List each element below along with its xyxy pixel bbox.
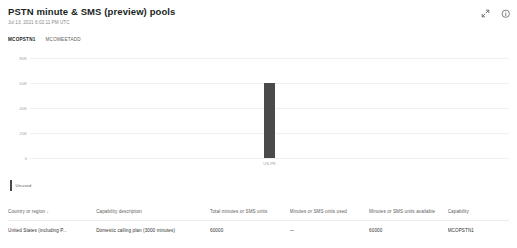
y-axis-tick-label: 40K [20, 106, 27, 111]
y-axis-tick-label: 60K [20, 81, 27, 86]
report-header: PSTN minute & SMS (preview) pools Jul 13… [8, 6, 509, 27]
column-header-capability[interactable]: Capability [448, 209, 509, 214]
cell-used: — [290, 228, 370, 233]
tab-mcomeetadd[interactable]: MCOMEETADD [46, 37, 81, 44]
tab-mcopstn1[interactable]: MCOPSTN1 [8, 37, 36, 44]
sku-tabs: MCOPSTN1 MCOMEETADD [8, 37, 81, 44]
cell-capability-description: Domestic calling plan (3000 minutes) [96, 228, 210, 233]
pool-details-table: Country or region ↓ Capability descripti… [8, 203, 509, 240]
y-axis-tick-label: 0 [25, 156, 27, 161]
page-title: PSTN minute & SMS (preview) pools [8, 6, 509, 18]
info-icon[interactable] [500, 8, 511, 19]
cell-available: 60000 [369, 228, 448, 233]
gridline [30, 58, 509, 59]
header-actions [480, 8, 511, 19]
table-row[interactable]: United States (including P... Domestic c… [8, 221, 509, 240]
column-header-available[interactable]: Minutes or SMS units available [369, 209, 448, 214]
x-axis-tick-label: US-PR [263, 161, 275, 166]
chart-legend: Unused [10, 180, 31, 191]
cell-total: 60000 [210, 228, 290, 233]
column-header-total[interactable]: Total minutes or SMS units [210, 209, 290, 214]
y-axis-tick-label: 20K [20, 131, 27, 136]
pool-usage-chart: 020K40K60K80KUS-PR [8, 58, 509, 170]
column-header-country[interactable]: Country or region ↓ [8, 209, 96, 214]
expand-icon[interactable] [480, 8, 491, 19]
column-header-used[interactable]: Minutes or SMS units used [290, 209, 370, 214]
sort-arrow-icon: ↓ [47, 209, 49, 214]
report-timestamp: Jul 13, 2021 6:02:11 PM UTC [8, 19, 509, 27]
legend-swatch-unused [10, 180, 12, 191]
legend-label-unused: Unused [16, 183, 32, 188]
gridline [30, 158, 509, 159]
column-header-capability-description[interactable]: Capability description [96, 209, 210, 214]
y-axis-tick-label: 80K [20, 56, 27, 61]
cell-capability: MCOPSTN1 [448, 228, 509, 233]
chart-bar[interactable] [264, 83, 275, 158]
pstn-pools-report: PSTN minute & SMS (preview) pools Jul 13… [0, 0, 517, 248]
chart-plot-area: 020K40K60K80KUS-PR [30, 58, 509, 158]
cell-country: United States (including P... [8, 228, 96, 233]
table-header-row: Country or region ↓ Capability descripti… [8, 203, 509, 221]
